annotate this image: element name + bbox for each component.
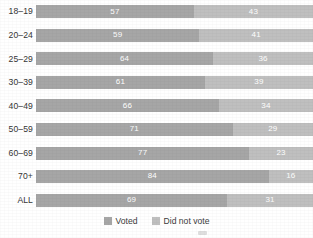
bar-segment-voted: 64 [36,52,213,65]
bar-segment-voted: 59 [36,29,199,42]
legend-item[interactable]: Voted [104,217,138,226]
stacked-bar-chart: 18–19574320–24594125–29643630–39613940–4… [0,0,313,238]
stacked-bar: 5941 [36,29,313,42]
bar-value-label: 77 [138,149,147,157]
bar-value-label: 69 [127,196,136,204]
bar-value-label: 31 [265,196,274,204]
legend-item[interactable]: Did not vote [152,217,210,226]
chart-plot-area: 18–19574320–24594125–29643630–39613940–4… [0,0,313,212]
stacked-bar: 5743 [36,5,313,18]
stacked-bar: 7129 [36,123,313,136]
bar-value-label: 23 [276,149,285,157]
stacked-bar: 6634 [36,99,313,112]
bar-segment-voted: 69 [36,194,227,207]
chart-row: 18–195743 [0,0,313,24]
category-label: 18–19 [0,7,36,16]
category-label: 30–39 [0,78,36,87]
bar-segment-did-not-vote: 23 [249,147,313,160]
category-label: 25–29 [0,55,36,64]
chart-legend: VotedDid not vote [0,214,313,228]
bar-segment-did-not-vote: 43 [194,5,313,18]
stacked-bar: 6139 [36,76,313,89]
bar-segment-did-not-vote: 16 [269,170,313,183]
bar-segment-voted: 57 [36,5,194,18]
bar-value-label: 66 [123,102,132,110]
bar-value-label: 36 [258,55,267,63]
chart-row: ALL6931 [0,188,313,212]
bar-segment-did-not-vote: 39 [205,76,313,89]
category-label: 50–59 [0,125,36,134]
stacked-bar: 8416 [36,170,313,183]
category-label: ALL [0,196,36,205]
chart-row: 40–496634 [0,94,313,118]
bar-value-label: 39 [254,78,263,86]
bar-value-label: 59 [113,31,122,39]
legend-swatch-icon [104,217,112,225]
bar-segment-did-not-vote: 29 [233,123,313,136]
bar-segment-voted: 77 [36,147,249,160]
bar-value-label: 16 [286,172,295,180]
category-label: 20–24 [0,31,36,40]
bar-value-label: 41 [252,31,261,39]
bar-value-label: 71 [130,125,139,133]
stacked-bar: 6931 [36,194,313,207]
stacked-bar: 7723 [36,147,313,160]
bar-segment-did-not-vote: 34 [219,99,313,112]
bar-segment-voted: 61 [36,76,205,89]
bar-segment-did-not-vote: 41 [199,29,313,42]
chart-row: 30–396139 [0,71,313,95]
chart-row: 50–597129 [0,118,313,142]
bar-segment-did-not-vote: 31 [227,194,313,207]
legend-label: Voted [116,217,138,226]
chart-row: 25–296436 [0,47,313,71]
bar-segment-voted: 66 [36,99,219,112]
bar-value-label: 57 [110,8,119,16]
bar-value-label: 84 [148,172,157,180]
chart-row: 70+8416 [0,165,313,189]
bar-segment-did-not-vote: 36 [213,52,313,65]
bar-value-label: 29 [268,125,277,133]
chart-row: 20–245941 [0,24,313,48]
category-label: 60–69 [0,149,36,158]
bar-value-label: 43 [249,8,258,16]
category-label: 40–49 [0,102,36,111]
legend-swatch-icon [152,217,160,225]
legend-label: Did not vote [164,217,210,226]
chart-row: 60–697723 [0,141,313,165]
bar-value-label: 34 [261,102,270,110]
category-label: 70+ [0,172,36,181]
bar-segment-voted: 84 [36,170,269,183]
scan-artifact [198,231,207,235]
bar-segment-voted: 71 [36,123,233,136]
stacked-bar: 6436 [36,52,313,65]
bar-value-label: 61 [116,78,125,86]
bar-value-label: 64 [120,55,129,63]
